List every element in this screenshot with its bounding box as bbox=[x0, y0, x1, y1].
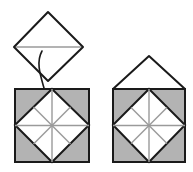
origami-diagram bbox=[0, 0, 193, 172]
origami-diagram-canvas bbox=[0, 0, 193, 172]
right-house-result-group bbox=[113, 56, 185, 162]
loose-diamond-flap-group bbox=[14, 12, 83, 81]
right-house-roof bbox=[113, 56, 185, 89]
left-square-base-group bbox=[15, 89, 89, 162]
